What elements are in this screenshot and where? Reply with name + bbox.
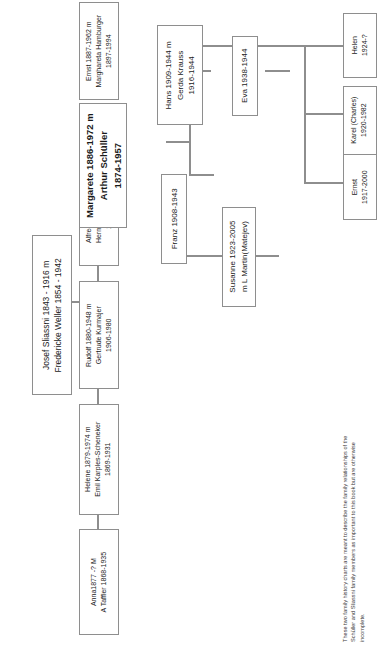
node-text-line2: Fredericke Weller 1854 - 1942	[53, 258, 63, 372]
node-text-line1: Josef Sliassni 1843 - 1916 m	[41, 260, 51, 369]
node-text-line3: 1869-1931	[105, 443, 112, 476]
connector-spine-to-karel	[304, 113, 344, 115]
node-josef-sliassni-fredericke-weller[interactable]: Josef Sliassni 1843 - 1916 m Fredericke …	[32, 235, 72, 395]
node-text-line2: A Taffler 1868-1935	[100, 552, 107, 612]
node-text-line3: 1874-1957	[111, 143, 122, 188]
node-text-line1: Helene 1879-1974 m	[85, 427, 92, 492]
chart-footnote-text: These two family history charts are mean…	[341, 426, 366, 642]
node-text-line1: Rudolf 1880-1948 m	[85, 303, 92, 366]
node-ernst-marghareta-hamburger[interactable]: Ernst 1887-1962 m Marghareta Hamburger 1…	[79, 2, 119, 100]
connector-spine-to-helen	[304, 45, 344, 47]
node-text-line1: Helen	[351, 36, 358, 54]
node-ernst-jr[interactable]: Ernst 1917-2000	[343, 154, 377, 220]
node-text-line1: Susanne 1923-2005	[228, 221, 237, 293]
node-text-line2: Emil Karples-Scheneker	[95, 422, 102, 497]
node-hans-gerda-krauss[interactable]: Hans 1909-1944 m Gerda Krauss 1916-1944	[157, 25, 203, 125]
connector-spine-to-ernstjr	[304, 182, 344, 184]
node-text-line1: Franz 1908-1943	[169, 189, 178, 250]
node-helene-karples-scheneker[interactable]: Helene 1879-1974 m Emil Karples-Scheneke…	[79, 404, 119, 515]
node-text-line2: m L Martin(Matejev)	[240, 222, 249, 293]
node-text-line3: 1916-1944	[187, 56, 196, 94]
node-anna-taffler[interactable]: Anna1877 -? M A Taffler 1868-1935	[79, 529, 119, 635]
family-tree-chart: Josef Sliassni 1843 - 1916 m Fredericke …	[0, 0, 386, 650]
connector-spine-to-franz	[189, 174, 214, 176]
node-susanne-l-martin-matejev[interactable]: Susanne 1923-2005 m L Martin(Matejev)	[222, 207, 256, 307]
node-text-line2: Gerda Krauss	[175, 50, 184, 99]
node-text-line1: Margarete 1886-1972 m	[83, 113, 94, 218]
node-eva[interactable]: Eva 1938-1944	[232, 36, 258, 116]
node-franz[interactable]: Franz 1908-1943	[161, 174, 187, 264]
node-text-line2: Arthur Schüller	[97, 131, 108, 200]
node-text-line2: Gertrude Kurmajer	[95, 306, 102, 364]
node-helen[interactable]: Helen 1924-?	[343, 13, 377, 78]
connector-hans-to-eva	[265, 70, 290, 72]
node-text-line1: Eva 1938-1944	[240, 49, 249, 103]
node-karel-charles[interactable]: Karel (Charles) 1920-1982	[343, 86, 377, 155]
node-text-line2: 1917-2000	[361, 170, 368, 203]
node-text-line2: 1924-?	[361, 35, 368, 57]
node-text-line1: Karel (Charles)	[351, 97, 358, 144]
node-text-line1: Ernst	[351, 179, 358, 195]
connector-margarete-to-spine	[166, 141, 190, 143]
node-text-line3: 1906-1980	[105, 318, 112, 351]
node-rudolf-gertrude-kurmajer[interactable]: Rudolf 1880-1948 m Gertrude Kurmajer 190…	[79, 281, 119, 389]
node-margarete-arthur-schuller[interactable]: Margarete 1886-1972 m Arthur Schüller 18…	[79, 103, 127, 228]
node-text-line2: 1920-1982	[361, 104, 368, 137]
node-text-line1: Ernst 1887-1962 m	[85, 21, 92, 81]
node-text-line1: Hans 1909-1944 m	[164, 41, 173, 109]
node-text-line3: 1897-1994	[105, 34, 112, 67]
node-text-line1: Anna1877 -? M	[90, 558, 97, 606]
node-text-line2: Marghareta Hamburger	[95, 15, 102, 88]
